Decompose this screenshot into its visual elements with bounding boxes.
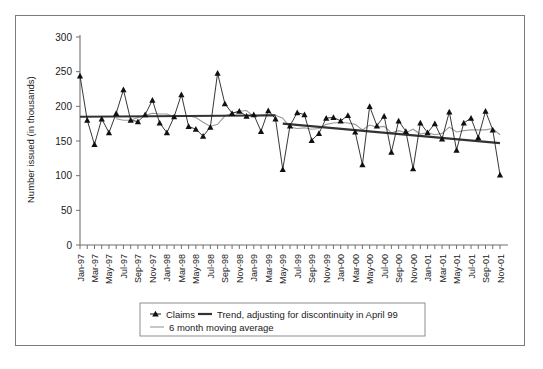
claims-marker [446,109,452,115]
x-tick-label-Nov-00: Nov-00 [409,254,419,283]
x-tick-label-Jan-98: Jan-98 [162,254,172,282]
claims-marker [316,130,322,136]
x-tick-label-Jan-99: Jan-99 [249,254,259,282]
claims-marker [475,134,481,140]
x-tick-label-Mar-97: Mar-97 [90,254,100,283]
claims-marker [265,107,271,113]
claims-marker [178,91,184,97]
claims-marker [193,126,199,132]
claims-marker [84,117,90,123]
x-tick-label-Jan-00: Jan-00 [336,254,346,282]
x-tick-label-May-99: May-99 [278,254,288,284]
x-tick-label-Nov-97: Nov-97 [148,254,158,283]
x-tick-label-Nov-99: Nov-99 [322,254,332,283]
chart-legend: ClaimsTrend, adjusting for discontinuity… [140,303,425,336]
x-tick-label-Jul-97: Jul-97 [119,254,129,279]
claims-marker [186,123,192,129]
claims-marker [222,100,228,106]
legend-label-moving-average: 6 month moving average [169,322,274,333]
x-tick-label-May-98: May-98 [191,254,201,284]
y-tick-label-300: 300 [55,32,72,43]
x-tick-label-Nov-01: Nov-01 [496,254,506,283]
y-tick-label-150: 150 [55,136,72,147]
claims-marker [367,103,373,109]
x-tick-label-Jan-01: Jan-01 [423,254,433,282]
claims-marker [294,109,300,115]
claims-marker [345,112,351,118]
legend-label-claims: Claims [166,309,195,320]
claims-marker [468,115,474,121]
y-tick-label-250: 250 [55,66,72,77]
y-tick-label-0: 0 [66,240,72,251]
claims-marker [432,121,438,127]
x-tick-label-Sep-00: Sep-00 [394,254,404,283]
x-tick-label-Mar-99: Mar-99 [264,254,274,283]
claims-marker [91,141,97,147]
claims-marker [157,120,163,126]
legend-label-trend: Trend, adjusting for discontinuity in Ap… [217,309,398,320]
claims-marker [280,166,286,172]
claims-marker [113,110,119,116]
claims-marker [120,87,126,93]
x-tick-label-May-01: May-01 [452,254,462,284]
y-tick-label-200: 200 [55,101,72,112]
x-tick-label-Mar-01: Mar-01 [438,254,448,283]
x-tick-label-Sep-01: Sep-01 [481,254,491,283]
y-tick-label-100: 100 [55,170,72,181]
x-axis-ticks: Jan-97Mar-97May-97Jul-97Sep-97Nov-97Jan-… [76,245,506,284]
claims-marker [338,118,344,124]
x-tick-label-Jul-01: Jul-01 [467,254,477,279]
y-axis-title: Number issued (in thousands) [25,76,36,203]
chart-svg: 050100150200250300Number issued (in thou… [0,0,543,369]
x-tick-label-Jul-98: Jul-98 [206,254,216,279]
claims-marker [381,113,387,119]
x-tick-label-Mar-00: Mar-00 [351,254,361,283]
claims-marker [214,70,220,76]
trend-segment-2 [283,124,500,143]
claims-marker [453,147,459,153]
claims-marker [497,172,503,178]
x-tick-label-Nov-98: Nov-98 [235,254,245,283]
claims-marker [77,73,83,79]
x-tick-label-May-00: May-00 [365,254,375,284]
chart-axes: 050100150200250300Number issued (in thou… [25,32,508,285]
x-tick-label-Jan-97: Jan-97 [76,254,86,282]
chart-figure: 050100150200250300Number issued (in thou… [0,0,543,369]
claims-marker [359,161,365,167]
claims-marker [149,97,155,103]
claims-marker [396,118,402,124]
claims-marker [461,120,467,126]
claims-marker [417,120,423,126]
x-tick-label-Mar-98: Mar-98 [177,254,187,283]
x-tick-label-Sep-99: Sep-99 [307,254,317,283]
x-tick-label-Jul-00: Jul-00 [380,254,390,279]
x-tick-label-Sep-98: Sep-98 [220,254,230,283]
claims-marker [258,128,264,134]
claims-marker [388,149,394,155]
x-tick-label-Sep-97: Sep-97 [133,254,143,283]
x-tick-label-Jul-99: Jul-99 [293,254,303,279]
x-tick-label-May-97: May-97 [104,254,114,284]
claims-marker [106,130,112,136]
claims-marker [410,166,416,172]
claims-marker [482,108,488,114]
series-claims-markers [77,70,503,178]
y-axis-ticks: 050100150200250300 [55,32,80,251]
series-6-month-moving-average [116,110,500,134]
y-tick-label-50: 50 [61,205,73,216]
